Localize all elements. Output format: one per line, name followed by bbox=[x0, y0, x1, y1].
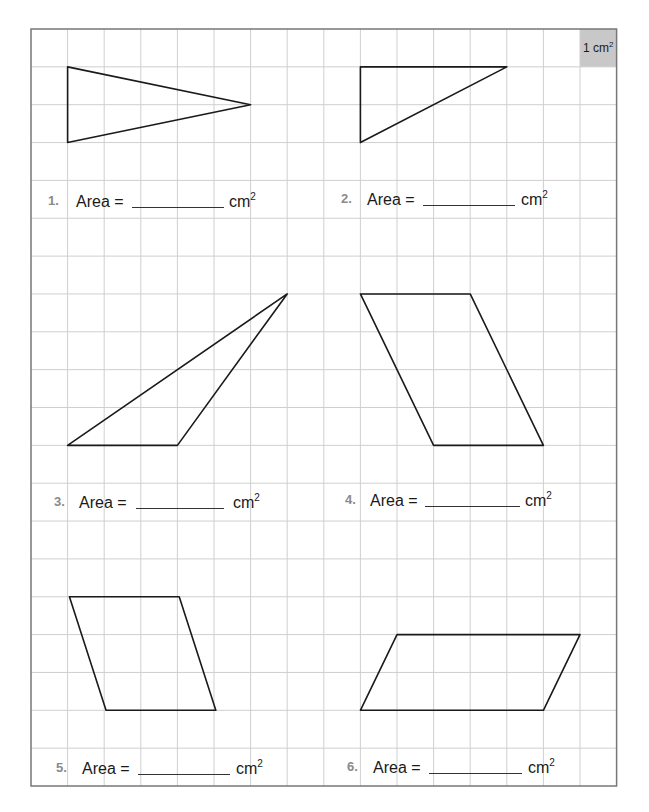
area-unit: cm2 bbox=[525, 491, 552, 511]
problem-number: 2. bbox=[341, 189, 352, 209]
grid-lines bbox=[31, 29, 617, 786]
area-unit: cm2 bbox=[528, 758, 555, 778]
unit-square-label: 1 cm2 bbox=[583, 41, 613, 55]
area-answer-blank[interactable] bbox=[429, 773, 522, 774]
area-label: Area = bbox=[370, 491, 418, 511]
area-unit: cm2 bbox=[521, 190, 548, 210]
area-answer-blank[interactable] bbox=[425, 506, 520, 507]
area-question-2: 2. Area = cm2 bbox=[0, 190, 649, 210]
problem-number: 6. bbox=[347, 757, 358, 777]
grid-paper bbox=[0, 0, 649, 812]
area-answer-blank[interactable] bbox=[423, 205, 515, 206]
area-label: Area = bbox=[373, 758, 421, 778]
problem-number: 4. bbox=[345, 490, 356, 510]
area-question-6: 6. Area = cm2 bbox=[0, 758, 649, 778]
shape-parallelogram-5 bbox=[69, 597, 215, 711]
area-label: Area = bbox=[367, 190, 415, 210]
area-question-4: 4. Area = cm2 bbox=[0, 491, 649, 511]
